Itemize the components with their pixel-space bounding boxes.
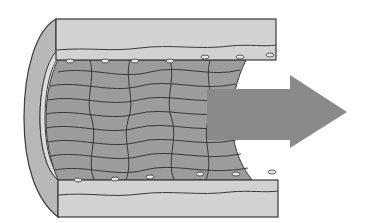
- vessel-diagram: [0, 0, 366, 223]
- outer-wall-top: [56, 19, 276, 63]
